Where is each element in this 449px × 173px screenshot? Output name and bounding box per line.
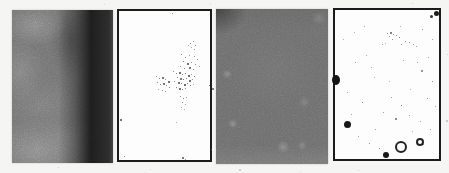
detected-speck [124,156,125,157]
detected-speck [354,32,355,33]
detected-speck [172,13,173,14]
detected-speck [192,79,193,80]
detected-speck [188,75,190,77]
detected-speck [187,63,189,65]
detected-speck [191,47,192,48]
detected-speck [190,85,191,86]
detected-speck [178,82,180,84]
detected-speck [176,122,177,123]
detected-speck [421,70,423,72]
detected-speck [199,66,200,67]
detection-map-b [333,8,441,161]
detected-speck [185,159,186,160]
detected-speck [366,55,367,56]
film-grain-texture [216,9,328,164]
detected-speck [355,62,356,63]
detected-speck [168,81,170,83]
detected-speck [190,43,191,44]
detected-speck [194,76,195,77]
detected-speck [379,148,380,149]
detected-speck [393,34,394,35]
detected-speck [193,41,194,42]
detected-speck [375,129,376,130]
detected-speck [184,84,186,86]
detected-speck [174,81,175,82]
detected-speck [432,81,433,82]
detected-speck [447,54,448,55]
detected-speck [427,98,428,99]
detected-speck [209,85,210,86]
detected-speck [162,90,163,91]
detected-speck [181,83,182,84]
detected-speck [165,79,166,80]
detected-speck [401,44,402,45]
detected-speck [351,114,352,115]
detected-ring-mark [416,138,424,146]
detected-speck [181,107,182,108]
detected-speck [182,74,183,75]
detected-speck [160,84,161,85]
detected-speck [187,83,188,84]
detected-speck [186,97,187,98]
detected-speck [58,167,59,168]
detected-speck [382,44,383,45]
detected-speck [417,62,418,63]
detected-speck [392,39,393,40]
detected-speck [413,44,414,45]
detected-speck [385,43,386,44]
detected-speck [332,75,340,85]
detected-speck [159,78,160,79]
detected-speck [182,102,183,103]
detected-speck [300,171,301,172]
detected-speck [195,45,196,46]
detected-speck [446,120,448,122]
detected-speck [163,83,165,85]
detected-speck [197,59,198,60]
detected-speck [157,82,158,83]
detected-ring-mark [395,141,407,153]
detected-speck [188,45,189,46]
detected-speck [212,88,214,90]
detected-speck [434,11,439,16]
detected-speck [412,3,413,4]
detected-speck [362,102,363,103]
detected-speck [173,71,174,72]
detected-speck [179,88,181,90]
detected-speck [358,136,359,137]
film-grain-texture [12,10,113,163]
detected-speck [191,62,192,63]
detected-speck [176,87,177,88]
detected-speck [185,104,186,105]
detected-speck [150,169,151,170]
detection-map-a [117,9,212,162]
detected-speck [185,57,186,58]
detected-speck [383,112,384,113]
detected-speck [409,115,410,116]
detected-speck [403,60,404,61]
detected-speck [158,89,159,90]
detected-speck [389,81,390,82]
detected-speck [416,46,417,47]
detected-speck [180,66,181,67]
detected-speck [195,64,196,65]
detected-speck [410,89,411,90]
detected-speck [369,143,370,144]
detected-speck [179,72,181,74]
mammogram-roi-a [12,10,113,163]
mammogram-cad-figure [0,0,449,173]
detected-speck [432,39,433,40]
detected-speck [344,121,351,128]
detected-speck [189,80,191,82]
detected-speck [182,157,184,159]
detected-speck [364,26,365,27]
detected-speck [176,73,177,74]
detected-speck [399,37,400,38]
detected-speck [162,77,164,79]
detected-speck [181,54,182,55]
detected-speck [210,3,211,4]
detected-speck [395,118,397,120]
detected-speck [239,169,241,171]
detected-speck [374,77,375,78]
detected-speck [409,42,410,43]
detected-speck [422,29,423,30]
